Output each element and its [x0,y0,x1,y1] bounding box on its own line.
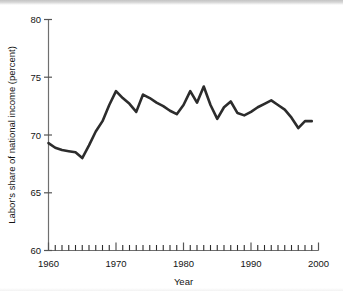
y-tick-label: 70 [30,130,41,141]
data-series-line [49,86,312,158]
y-tick-label: 80 [30,14,41,25]
x-tick-label: 1980 [173,258,194,269]
x-tick-label: 1970 [105,258,126,269]
x-axis-title: Year [174,276,193,287]
x-tick-label: 1960 [38,258,59,269]
line-chart: 80 75 70 65 60 1960 1970 1980 1990 2000 … [0,0,343,291]
y-tick-label: 75 [30,72,41,83]
y-tick-label: 65 [30,187,41,198]
y-axis-tick-labels: 80 75 70 65 60 [30,14,41,256]
chart-figure: 80 75 70 65 60 1960 1970 1980 1990 2000 … [0,0,343,291]
x-tick-label: 1990 [240,258,261,269]
x-axis-tick-labels: 1960 1970 1980 1990 2000 [38,258,329,269]
x-axis-ticks [49,243,319,251]
y-axis-title: Labor's share of national income (percen… [6,46,17,224]
x-tick-label: 2000 [308,258,329,269]
y-tick-label: 60 [30,245,41,256]
